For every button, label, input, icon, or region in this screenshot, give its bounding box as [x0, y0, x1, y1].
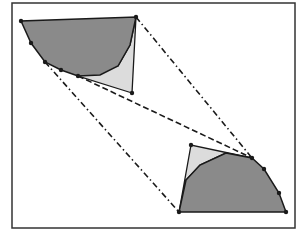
dashed-connector-line — [78, 76, 252, 158]
vertex-dot — [59, 68, 63, 72]
vertex-dot — [189, 143, 193, 147]
vertex-dot — [277, 191, 281, 195]
vertex-dot — [284, 210, 288, 214]
diagram-canvas — [0, 0, 304, 230]
upper-shape — [19, 15, 138, 95]
vertex-dot — [262, 167, 266, 171]
dash-dot-connector-line — [136, 17, 252, 158]
vertex-dot — [29, 41, 33, 45]
lower-shape — [177, 143, 288, 214]
vertex-dot — [130, 91, 134, 95]
vertex-dot — [19, 19, 23, 23]
